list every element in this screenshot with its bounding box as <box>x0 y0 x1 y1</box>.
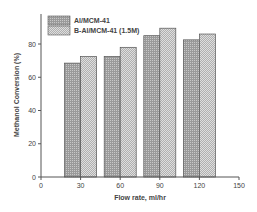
x-tick-label: 30 <box>77 182 85 189</box>
legend: Al/MCM-41 B-Al/MCM-41 (1.5M) <box>48 16 139 35</box>
y-tick-label: 60 <box>28 74 36 81</box>
bar-1-90 <box>144 36 160 177</box>
bar-1-120 <box>183 40 199 177</box>
bar-2-60 <box>120 47 136 177</box>
bars <box>65 28 216 177</box>
y-ticks: 020406080 <box>28 41 41 181</box>
legend-label-series-2: B-Al/MCM-41 (1.5M) <box>74 27 139 35</box>
y-tick-label: 40 <box>28 107 36 114</box>
legend-swatch-series-2 <box>48 26 70 35</box>
x-tick-label: 0 <box>39 182 43 189</box>
y-tick-label: 80 <box>28 41 36 48</box>
y-tick-label: 20 <box>28 140 36 147</box>
y-axis-label: Methanol Conversion (%) <box>13 53 21 137</box>
bar-2-30 <box>81 56 97 177</box>
y-tick-label: 0 <box>32 174 36 181</box>
legend-label-series-1: Al/MCM-41 <box>74 17 110 24</box>
x-tick-label: 120 <box>194 182 206 189</box>
x-tick-label: 90 <box>156 182 164 189</box>
bar-chart: 0306090120150 020406080 Flow rate, ml/hr… <box>0 0 257 212</box>
x-ticks: 0306090120150 <box>39 177 245 189</box>
bar-2-90 <box>160 28 176 177</box>
bar-1-30 <box>65 63 81 177</box>
legend-swatch-series-1 <box>48 16 70 25</box>
bar-1-60 <box>104 56 120 177</box>
x-tick-label: 60 <box>116 182 124 189</box>
x-axis-label: Flow rate, ml/hr <box>114 194 166 202</box>
x-tick-label: 150 <box>233 182 245 189</box>
bar-2-120 <box>199 34 215 177</box>
